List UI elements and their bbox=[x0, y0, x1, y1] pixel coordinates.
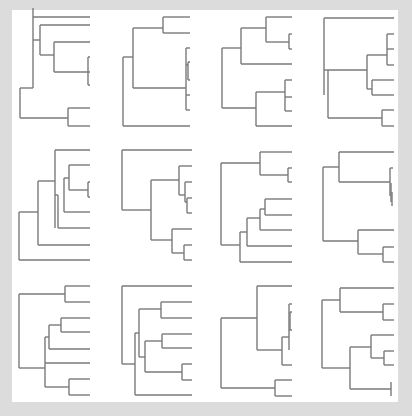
dendrogram-panel-r1c4 bbox=[324, 18, 394, 126]
dendrogram-panel-r3c3 bbox=[221, 286, 292, 396]
dendrogram-panel-r2c4 bbox=[323, 152, 394, 262]
dendrogram-panel-r1c3 bbox=[222, 17, 292, 126]
dendrogram-panel-r3c2 bbox=[122, 286, 192, 395]
dendrogram-panel-r2c1 bbox=[19, 150, 90, 260]
dendrogram-panel-r3c4 bbox=[322, 288, 394, 396]
right-edge-shade bbox=[400, 0, 412, 416]
dendrogram-panel-r2c2 bbox=[122, 150, 192, 260]
dendrogram-panel-r3c1 bbox=[19, 286, 90, 395]
dendrogram-panel-r1c1 bbox=[20, 8, 90, 126]
dendrogram-panel-r1c2 bbox=[123, 17, 190, 126]
dendrogram-canvas bbox=[0, 0, 412, 416]
dendrogram-panel-r2c3 bbox=[221, 152, 292, 262]
